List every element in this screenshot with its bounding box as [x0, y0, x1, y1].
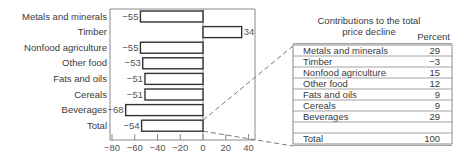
row-label: Metals and minerals	[303, 45, 388, 56]
table-title-line-2: price decline	[342, 26, 395, 37]
bar	[143, 58, 203, 69]
bar-row: Nonfood agriculture−55	[24, 42, 203, 54]
bar-row: Beverages−68	[62, 104, 203, 116]
x-tick-label: 40	[243, 142, 254, 153]
category-label: Beverages	[62, 104, 108, 115]
bar-row: Other food−53	[62, 57, 203, 69]
value-label: −55	[122, 42, 138, 53]
bar	[203, 27, 242, 38]
table-row: Fats and oils9	[293, 89, 452, 100]
bar-chart: −80−60−40−2002040Metals and minerals−55T…	[22, 9, 255, 153]
category-label: Nonfood agriculture	[24, 42, 107, 53]
value-label: −54	[123, 120, 139, 131]
connector-lines	[203, 46, 293, 146]
bar	[145, 73, 203, 84]
table-row: Cereals9	[293, 100, 452, 111]
value-label: −68	[108, 104, 124, 115]
category-label: Timber	[78, 26, 107, 37]
bar-row: Timber34	[78, 26, 254, 38]
row-label: Total	[303, 133, 323, 144]
value-label: −55	[122, 11, 138, 22]
table-title-line-1: Contributions to the total	[318, 15, 421, 26]
table-row: Total100	[293, 133, 452, 144]
category-label: Fats and oils	[53, 73, 107, 84]
value-label: −51	[127, 89, 143, 100]
bar	[142, 120, 203, 131]
bar-row: Cereals−51	[74, 89, 203, 101]
row-percent: 100	[424, 133, 440, 144]
x-tick-label: 20	[220, 142, 231, 153]
row-label: Other food	[303, 78, 348, 89]
x-tick-label: 0	[200, 142, 205, 153]
table-row: Metals and minerals29	[303, 45, 440, 56]
table-row: Other food12	[293, 78, 452, 89]
value-label: −51	[127, 73, 143, 84]
table-row: Nonfood agriculture15	[293, 67, 452, 78]
row-percent: 29	[429, 111, 440, 122]
row-label: Cereals	[303, 100, 336, 111]
bar-row: Total−54	[87, 120, 203, 132]
chart-figure: −80−60−40−2002040Metals and minerals−55T…	[0, 0, 471, 160]
category-label: Total	[87, 120, 107, 131]
x-tick-label: −20	[172, 142, 188, 153]
bar	[145, 89, 203, 100]
row-percent: 29	[429, 45, 440, 56]
row-label: Nonfood agriculture	[303, 67, 386, 78]
table-row: Timber−3	[293, 56, 452, 67]
row-percent: 9	[435, 100, 440, 111]
category-label: Metals and minerals	[22, 11, 107, 22]
row-label: Timber	[303, 56, 332, 67]
bar-row: Metals and minerals−55	[22, 11, 203, 23]
connector-line-top	[203, 46, 293, 120]
percent-column-header: Percent	[417, 31, 450, 42]
bar-row: Fats and oils−51	[53, 73, 203, 85]
row-label: Beverages	[303, 111, 349, 122]
row-percent: −3	[429, 56, 440, 67]
bar	[140, 11, 203, 22]
value-label: 34	[244, 26, 255, 37]
row-label: Fats and oils	[303, 89, 357, 100]
row-percent: 15	[429, 67, 440, 78]
value-label: −53	[125, 57, 141, 68]
bar	[140, 42, 203, 53]
x-tick-label: −40	[149, 142, 165, 153]
row-percent: 9	[435, 89, 440, 100]
contributions-table: Contributions to the totalprice declineP…	[293, 15, 452, 146]
row-percent: 12	[429, 78, 440, 89]
bar	[126, 105, 203, 116]
table-row: Beverages29	[293, 111, 452, 122]
category-label: Other food	[62, 57, 107, 68]
x-tick-label: −60	[127, 142, 143, 153]
category-label: Cereals	[74, 89, 107, 100]
x-tick-label: −80	[104, 142, 120, 153]
